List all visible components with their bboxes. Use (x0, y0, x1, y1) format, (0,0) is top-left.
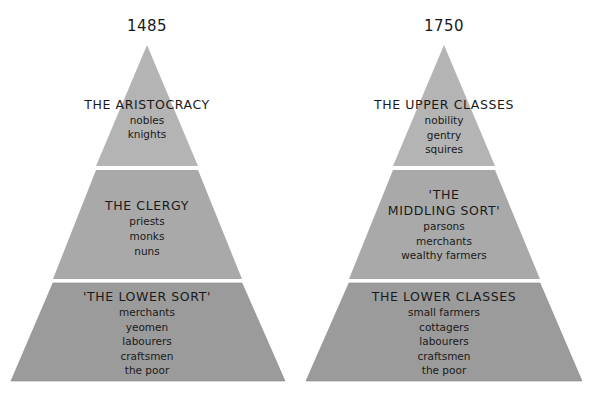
tier-title: THE UPPER CLASSES (334, 97, 554, 113)
tier-item: the poor (37, 363, 257, 378)
tier-clergy: THE CLERGY priests monks nuns (37, 198, 257, 259)
tier-item: parsons (334, 219, 554, 234)
tier-item: craftsmen (334, 349, 554, 364)
tier-item: knights (37, 127, 257, 141)
tier-item: craftsmen (37, 349, 257, 364)
tier-item: nobility (334, 113, 554, 128)
tier-item: labourers (334, 334, 554, 349)
year-label: 1485 (117, 17, 177, 35)
tier-item: squires (334, 142, 554, 157)
tier-title-line1: 'THE (334, 187, 554, 203)
tier-item: merchants (37, 305, 257, 320)
tier-title-line2: MIDDLING SORT' (334, 203, 554, 219)
pyramid-1750: 1750 THE UPPER CLASSES nobility gentry s… (297, 0, 594, 397)
tier-item: merchants (334, 234, 554, 249)
tier-lower-sort: 'THE LOWER SORT' merchants yeomen labour… (37, 289, 257, 378)
tier-item: monks (37, 229, 257, 244)
tier-lower-classes: THE LOWER CLASSES small farmers cottager… (334, 289, 554, 378)
pyramid-1485: 1485 THE ARISTOCRACY nobles knights THE … (0, 0, 297, 397)
tier-upper-classes: THE UPPER CLASSES nobility gentry squire… (334, 97, 554, 157)
tier-item: nuns (37, 244, 257, 259)
tier-item: small farmers (334, 305, 554, 320)
tier-item: the poor (334, 363, 554, 378)
tier-item: nobles (37, 113, 257, 127)
year-label: 1750 (414, 17, 474, 35)
tier-title: 'THE LOWER SORT' (37, 289, 257, 305)
tier-title: THE LOWER CLASSES (334, 289, 554, 305)
tier-middling-sort: 'THE MIDDLING SORT' parsons merchants we… (334, 187, 554, 263)
tier-title: THE ARISTOCRACY (37, 97, 257, 113)
tier-item: wealthy farmers (334, 248, 554, 263)
tier-item: priests (37, 214, 257, 229)
tier-item: yeomen (37, 320, 257, 335)
tier-item: labourers (37, 334, 257, 349)
tier-aristocracy: THE ARISTOCRACY nobles knights (37, 97, 257, 141)
tier-item: cottagers (334, 320, 554, 335)
tier-title: THE CLERGY (37, 198, 257, 214)
tier-item: gentry (334, 128, 554, 143)
